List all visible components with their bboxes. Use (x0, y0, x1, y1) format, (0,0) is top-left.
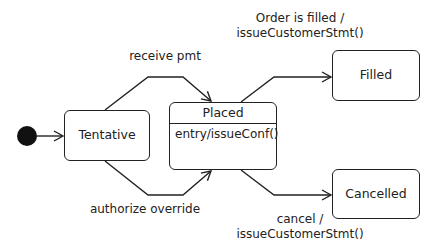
state-name: Cancelled (333, 186, 419, 201)
state-tentative: Tentative (64, 110, 150, 161)
state-name: Tentative (65, 127, 149, 142)
label-receive-pmt: receive pmt (100, 49, 230, 64)
transition-order-filled (241, 77, 331, 102)
label-order-filled-line1: Order is filled / (235, 11, 365, 26)
state-activity: entry/issueConf() (175, 127, 279, 141)
initial-pseudostate (17, 126, 37, 146)
state-name: Placed (170, 105, 276, 120)
label-authorize-override: authorize override (80, 202, 210, 217)
label-cancel-line2: issueCustomerStmt() (235, 227, 365, 242)
transition-cancel (241, 170, 331, 195)
label-order-filled-line2: issueCustomerStmt() (235, 26, 365, 41)
state-placed: Placed entry/issueConf() (169, 102, 277, 170)
state-divider (170, 123, 276, 124)
state-name: Filled (333, 67, 419, 82)
state-cancelled: Cancelled (332, 169, 420, 219)
state-filled: Filled (332, 50, 420, 101)
